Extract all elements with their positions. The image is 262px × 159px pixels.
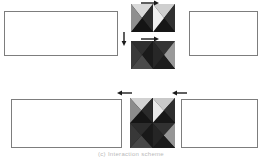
pyramid-cell bbox=[153, 4, 175, 32]
pyramid-cell bbox=[130, 98, 153, 123]
pyramid-cell bbox=[131, 4, 153, 32]
arrow-bottom-left-in-icon bbox=[117, 90, 132, 96]
arrow-top-into-block-icon bbox=[141, 0, 159, 6]
pyramid-cell bbox=[153, 98, 176, 123]
panel-top-right bbox=[189, 11, 258, 56]
texture-block-top bbox=[131, 4, 175, 32]
arrow-mid-into-block-icon bbox=[141, 36, 159, 42]
arrow-down-left-of-blocks-icon bbox=[121, 32, 127, 46]
texture-block-bottom bbox=[130, 98, 175, 148]
panel-top-left bbox=[4, 11, 118, 56]
arrow-bottom-right-in-icon bbox=[172, 90, 187, 96]
pyramid-cell bbox=[131, 41, 153, 69]
pyramid-cell bbox=[130, 123, 153, 148]
panel-bottom-left bbox=[11, 99, 122, 148]
panel-bottom-right bbox=[181, 99, 258, 148]
figure-canvas: (c) Interaction scheme bbox=[0, 0, 262, 159]
pyramid-cell bbox=[153, 123, 176, 148]
figure-caption: (c) Interaction scheme bbox=[0, 151, 262, 157]
texture-block-middle bbox=[131, 41, 175, 69]
pyramid-cell bbox=[153, 41, 175, 69]
